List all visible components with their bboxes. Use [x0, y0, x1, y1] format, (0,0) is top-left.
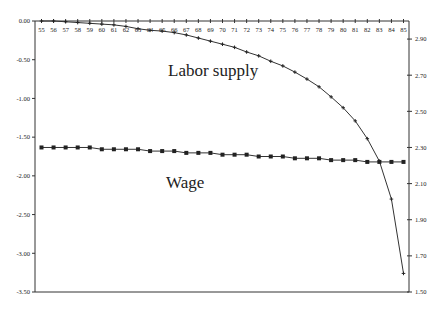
- wage-point: [172, 149, 176, 153]
- wage-point: [257, 155, 261, 159]
- x-tick-label: 71: [231, 26, 238, 33]
- labor-supply-point: [209, 39, 213, 43]
- wage-point: [112, 147, 116, 151]
- wage-point: [124, 147, 128, 151]
- x-tick-label: 55: [38, 26, 45, 33]
- wage-point: [245, 153, 249, 157]
- x-tick-label: 61: [111, 26, 118, 33]
- labor-supply-point: [245, 50, 249, 54]
- wage-point: [148, 149, 152, 153]
- right-tick-label: 2.70: [415, 72, 426, 79]
- left-tick-label: -3.00: [16, 250, 30, 257]
- labor-supply-point: [185, 33, 189, 37]
- x-tick-label: 81: [352, 26, 359, 33]
- right-tick-label: 2.30: [415, 144, 426, 151]
- wage-point: [269, 155, 273, 159]
- right-tick-label: 2.10: [415, 180, 426, 187]
- right-tick-label: 1.50: [415, 288, 426, 295]
- left-tick-label: 0.00: [19, 17, 30, 24]
- wage-point: [233, 153, 237, 157]
- wage-point: [365, 160, 369, 164]
- x-tick-label: 78: [316, 26, 323, 33]
- labor-supply-point: [269, 59, 273, 63]
- labor-supply-point: [257, 54, 261, 58]
- series-layer: [40, 19, 406, 275]
- series-wage: [40, 145, 406, 163]
- x-tick-label: 68: [195, 26, 202, 33]
- left-tick-label: -2.00: [16, 172, 30, 179]
- annotation-wage: Wage: [166, 173, 204, 192]
- right-axis-ticks: 2.902.702.502.302.101.901.701.50: [407, 35, 426, 295]
- left-axis-ticks: 0.00-0.50-1.00-1.50-2.00-2.50-3.00-3.50: [16, 17, 35, 295]
- x-tick-label: 84: [388, 26, 395, 33]
- x-tick-label: 72: [243, 26, 250, 33]
- wage-point: [221, 153, 225, 157]
- x-tick-label: 79: [328, 26, 335, 33]
- x-tick-label: 58: [74, 26, 81, 33]
- x-tick-label: 69: [207, 26, 214, 33]
- left-tick-label: -2.50: [16, 211, 30, 218]
- wage-point: [281, 155, 285, 159]
- x-tick-label: 70: [219, 26, 226, 33]
- labor-supply-point: [88, 22, 92, 26]
- series-labor-supply: [40, 19, 406, 275]
- x-tick-label: 76: [292, 26, 299, 33]
- wage-point: [100, 147, 104, 151]
- wage-point: [88, 145, 92, 149]
- labor-supply-point: [402, 272, 406, 276]
- annotation-labor-supply: Labor supply: [168, 61, 259, 80]
- x-tick-label: 82: [364, 26, 371, 33]
- wage-point: [377, 160, 381, 164]
- x-tick-label: 57: [62, 26, 69, 33]
- wage-point: [136, 147, 140, 151]
- wage-point: [329, 158, 333, 162]
- wage-point: [208, 151, 212, 155]
- left-tick-label: -1.50: [16, 133, 30, 140]
- wage-point: [40, 145, 44, 149]
- chart: 0.00-0.50-1.00-1.50-2.00-2.50-3.00-3.50 …: [0, 0, 442, 310]
- right-tick-label: 1.70: [415, 252, 426, 259]
- wage-point: [353, 158, 357, 162]
- left-tick-label: -3.50: [16, 288, 30, 295]
- labor-supply-point: [390, 197, 394, 201]
- x-tick-label: 67: [183, 26, 190, 33]
- right-tick-label: 1.90: [415, 216, 426, 223]
- wage-point: [341, 158, 345, 162]
- x-tick-label: 59: [87, 26, 94, 33]
- wage-point: [293, 156, 297, 160]
- wage-point: [402, 160, 406, 164]
- wage-point: [52, 145, 56, 149]
- wage-point: [305, 156, 309, 160]
- wage-point: [389, 160, 393, 164]
- labor-supply-point: [52, 19, 56, 23]
- left-tick-label: -0.50: [16, 56, 30, 63]
- labor-supply-point: [221, 42, 225, 46]
- wage-point: [317, 156, 321, 160]
- right-tick-label: 2.50: [415, 108, 426, 115]
- x-tick-label: 83: [376, 26, 383, 33]
- labor-supply-point: [197, 36, 201, 40]
- wage-point: [196, 151, 200, 155]
- x-tick-label: 60: [99, 26, 106, 33]
- x-tick-label: 75: [280, 26, 287, 33]
- wage-point: [64, 145, 68, 149]
- wage-point: [160, 149, 164, 153]
- x-tick-label: 56: [50, 26, 57, 33]
- right-tick-label: 2.90: [415, 35, 426, 42]
- wage-point: [76, 145, 80, 149]
- x-tick-label: 73: [255, 26, 262, 33]
- labor-supply-point: [281, 64, 285, 68]
- x-tick-label: 77: [304, 26, 311, 33]
- left-tick-label: -1.00: [16, 95, 30, 102]
- x-tick-label: 74: [268, 26, 275, 33]
- wage-point: [184, 151, 188, 155]
- labor-supply-point: [40, 19, 44, 23]
- labor-supply-point: [233, 46, 237, 50]
- x-tick-label: 85: [400, 26, 407, 33]
- labor-supply-line: [42, 21, 404, 273]
- x-tick-label: 80: [340, 26, 347, 33]
